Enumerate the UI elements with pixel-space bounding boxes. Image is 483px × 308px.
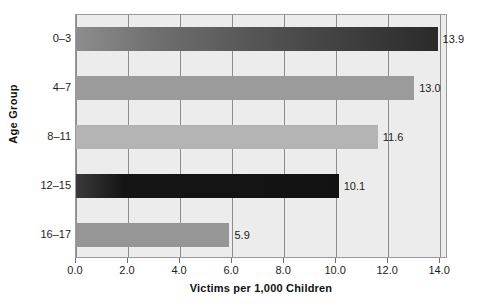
y-axis-title: Age Group [7,54,19,174]
bar-value-label: 13.0 [419,76,440,100]
x-tick-mark [231,258,232,263]
x-tick-mark [439,258,440,263]
x-tick-mark [387,258,388,263]
bar-value-label: 5.9 [234,223,249,247]
x-tick-label: 12.0 [367,264,407,276]
x-tick-mark [127,258,128,263]
chart-figure: 0–34–78–1112–1516–17 Age Group 13.913.01… [0,0,483,308]
x-axis: Victims per 1,000 Children 0.02.04.06.08… [75,258,447,308]
x-tick-label: 4.0 [159,264,199,276]
bar[interactable] [76,76,414,100]
x-tick-label: 6.0 [211,264,251,276]
bar[interactable] [76,223,229,247]
x-tick-mark [75,258,76,263]
bar-value-label: 13.9 [443,27,464,51]
bar[interactable] [76,174,339,198]
x-tick-mark [335,258,336,263]
x-tick-mark [179,258,180,263]
bar-value-label: 10.1 [344,174,365,198]
x-tick-mark [283,258,284,263]
x-tick-label: 0.0 [55,264,95,276]
x-tick-label: 8.0 [263,264,303,276]
chart-title [0,0,483,2]
x-tick-label: 2.0 [107,264,147,276]
y-tick-label: 16–17 [1,222,71,246]
bar-value-label: 11.6 [383,125,404,149]
x-axis-title: Victims per 1,000 Children [75,282,447,294]
y-tick-label: 0–3 [1,26,71,50]
bar[interactable] [76,125,378,149]
gridline [440,15,441,257]
plot-area: 13.913.011.610.15.9 [75,14,447,258]
bar[interactable] [76,27,438,51]
y-tick-label: 12–15 [1,173,71,197]
x-tick-label: 14.0 [419,264,459,276]
x-tick-label: 10.0 [315,264,355,276]
